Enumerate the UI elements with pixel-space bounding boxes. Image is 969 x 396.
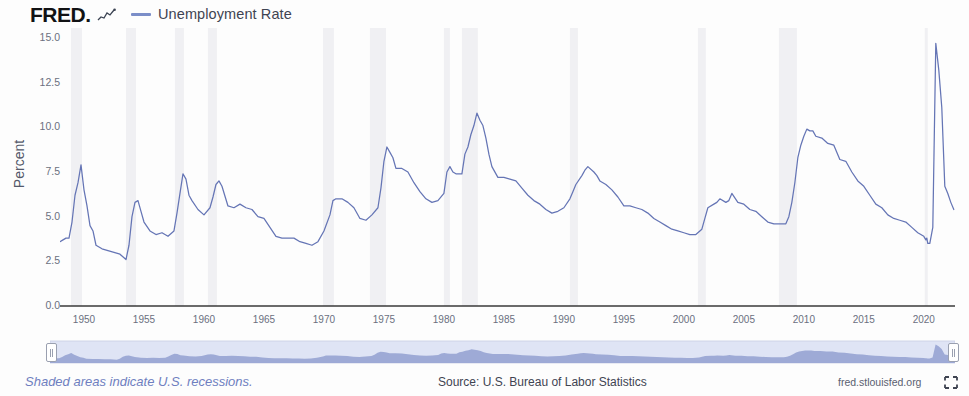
recession-band <box>208 28 217 306</box>
x-axis-tick: 1970 <box>313 314 335 325</box>
x-axis-tick: 1950 <box>73 314 95 325</box>
y-axis-tick: 10.0 <box>14 120 60 132</box>
navigator-right-handle[interactable] <box>948 343 959 362</box>
recession-bands <box>71 28 928 306</box>
x-axis-tick: 2000 <box>673 314 695 325</box>
y-axis-ticks: 0.02.55.07.510.012.515.0 <box>0 28 60 320</box>
recession-band <box>570 28 578 306</box>
fred-logo-text: FRED <box>30 3 85 26</box>
fred-chart-widget: FRED. Unemployment Rate Percent 0.02.55.… <box>0 0 969 396</box>
navigator-minichart[interactable] <box>50 340 955 366</box>
navigator-left-handle[interactable] <box>46 343 57 362</box>
chart-canvas <box>60 28 955 320</box>
recession-note: Shaded areas indicate U.S. recessions. <box>25 374 253 389</box>
source-note: Source: U.S. Bureau of Labor Statistics <box>438 375 647 389</box>
y-axis-tick: 0.0 <box>14 299 60 311</box>
y-axis-tick: 7.5 <box>14 165 60 177</box>
y-axis-tick: 5.0 <box>14 210 60 222</box>
fred-url[interactable]: fred.stlouisfed.org <box>838 376 921 388</box>
series-unemployment-rate <box>60 43 954 259</box>
x-axis-tick: 1980 <box>433 314 455 325</box>
y-axis-tick: 12.5 <box>14 76 60 88</box>
recession-band <box>175 28 184 306</box>
recession-band <box>925 28 928 306</box>
legend-series-label: Unemployment Rate <box>158 6 292 22</box>
x-axis-tick: 1985 <box>493 314 515 325</box>
recession-band <box>779 28 797 306</box>
y-axis-tick: 2.5 <box>14 254 60 266</box>
x-axis-tick: 1965 <box>253 314 275 325</box>
recession-band <box>462 28 478 306</box>
fullscreen-expand-icon[interactable] <box>944 376 958 389</box>
chart-legend[interactable]: Unemployment Rate <box>131 4 292 24</box>
chart-navigator[interactable] <box>50 340 955 366</box>
fred-logo[interactable]: FRED. <box>30 3 91 27</box>
x-axis-tick: 2020 <box>913 314 935 325</box>
x-axis-tick: 2015 <box>853 314 875 325</box>
sparkline-icon <box>97 8 117 22</box>
legend-color-swatch <box>131 13 151 16</box>
fred-logo-dot: . <box>85 3 90 26</box>
x-axis-tick: 1995 <box>613 314 635 325</box>
x-axis-tick: 1960 <box>193 314 215 325</box>
recession-band <box>698 28 706 306</box>
chart-footer: Shaded areas indicate U.S. recessions. S… <box>0 372 969 396</box>
x-axis-ticks: 1950195519601965197019751980198519901995… <box>60 314 955 336</box>
recession-band <box>126 28 136 306</box>
x-axis-tick: 2010 <box>793 314 815 325</box>
x-axis-tick: 2005 <box>733 314 755 325</box>
x-axis-tick: 1975 <box>373 314 395 325</box>
y-axis-tick: 15.0 <box>14 31 60 43</box>
x-axis-tick: 1990 <box>553 314 575 325</box>
plot-area: Percent 0.02.55.07.510.012.515.0 1950195… <box>0 28 969 320</box>
chart-header: FRED. Unemployment Rate <box>0 0 969 30</box>
x-axis-tick: 1955 <box>133 314 155 325</box>
recession-band <box>323 28 334 306</box>
